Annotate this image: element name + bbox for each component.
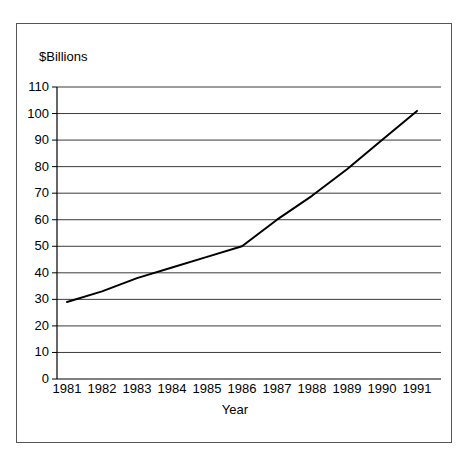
- y-tick-label: 70: [15, 185, 49, 200]
- y-tick-label: 110: [15, 79, 49, 94]
- x-tick-label: 1991: [397, 381, 437, 396]
- x-tick-label: 1988: [292, 381, 332, 396]
- x-tick-label: 1982: [82, 381, 122, 396]
- x-tick-label: 1990: [362, 381, 402, 396]
- x-tick-label: 1989: [327, 381, 367, 396]
- x-tick-label: 1985: [187, 381, 227, 396]
- y-axis-ticks: [52, 87, 57, 379]
- x-tick-label: 1981: [47, 381, 87, 396]
- y-tick-label: 80: [15, 159, 49, 174]
- plot-area: 1101009080706050403020100 19811982198319…: [17, 24, 453, 444]
- x-axis-title: Year: [17, 402, 453, 417]
- y-tick-label: 10: [15, 344, 49, 359]
- axis-lines: [57, 87, 441, 379]
- y-tick-label: 0: [15, 371, 49, 386]
- y-tick-label: 100: [15, 106, 49, 121]
- y-tick-label: 50: [15, 238, 49, 253]
- gridlines: [57, 87, 441, 352]
- y-tick-label: 40: [15, 265, 49, 280]
- y-tick-label: 60: [15, 212, 49, 227]
- y-tick-label: 90: [15, 132, 49, 147]
- x-tick-label: 1986: [222, 381, 262, 396]
- chart-figure-frame: $Billions 1101009080706050403020100 1981…: [16, 23, 452, 443]
- data-series-line: [67, 111, 417, 302]
- x-tick-label: 1984: [152, 381, 192, 396]
- y-tick-label: 30: [15, 291, 49, 306]
- x-tick-label: 1983: [117, 381, 157, 396]
- y-tick-label: 20: [15, 318, 49, 333]
- x-tick-label: 1987: [257, 381, 297, 396]
